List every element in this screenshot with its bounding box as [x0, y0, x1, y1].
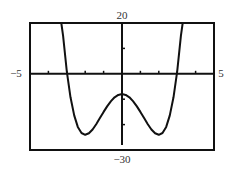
- function-graph: 20 −30 −5 5: [0, 0, 234, 170]
- x-max-label: 5: [218, 67, 224, 79]
- y-min-label: −30: [113, 153, 131, 165]
- x-min-label: −5: [10, 67, 22, 79]
- y-max-label: 20: [117, 9, 129, 21]
